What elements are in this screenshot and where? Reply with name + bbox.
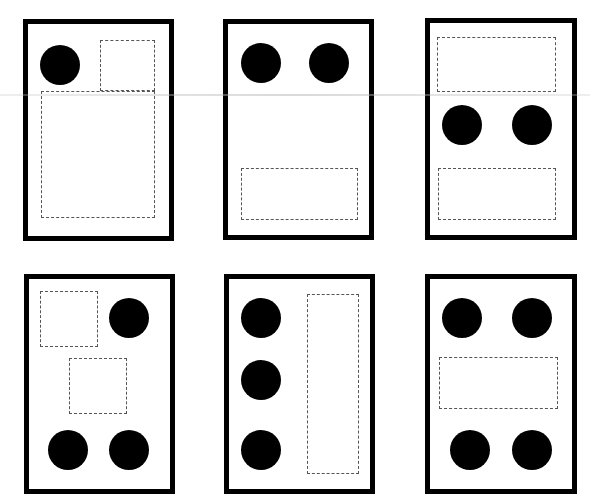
filled-circle-icon (512, 430, 552, 470)
dashed-placeholder-box (438, 168, 556, 220)
filled-circle-icon (109, 430, 149, 470)
filled-circle-icon (450, 430, 490, 470)
filled-circle-icon (241, 430, 281, 470)
dashed-placeholder-box (100, 40, 155, 91)
dashed-placeholder-box (307, 294, 359, 474)
filled-circle-icon (309, 43, 349, 83)
filled-circle-icon (442, 298, 482, 338)
filled-circle-icon (241, 298, 281, 338)
dashed-placeholder-box (439, 357, 558, 409)
filled-circle-icon (48, 430, 88, 470)
dashed-placeholder-box (40, 291, 98, 347)
filled-circle-icon (241, 43, 281, 83)
dashed-placeholder-box (241, 168, 358, 220)
filled-circle-icon (40, 45, 80, 85)
filled-circle-icon (512, 298, 552, 338)
filled-circle-icon (241, 360, 281, 400)
scan-artifact-line (0, 94, 590, 96)
dashed-placeholder-box (437, 37, 556, 92)
filled-circle-icon (442, 105, 482, 145)
dashed-placeholder-box (41, 91, 155, 218)
filled-circle-icon (512, 105, 552, 145)
filled-circle-icon (109, 298, 149, 338)
dashed-placeholder-box (69, 358, 127, 414)
